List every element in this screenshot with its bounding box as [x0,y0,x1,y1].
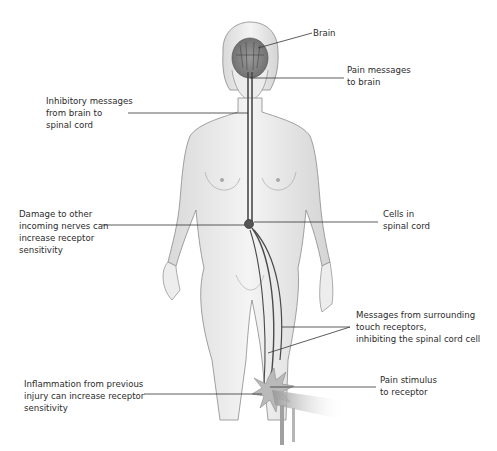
label-inhibitory-messages: Inhibitory messages from brain to spinal… [46,95,133,131]
label-cells-spinal-cord: Cells in spinal cord [383,208,430,232]
label-touch-receptors: Messages from surrounding touch receptor… [356,309,480,345]
brain-graphic [232,38,268,78]
label-brain: Brain [313,27,336,39]
label-inflammation: Inflammation from previous injury can in… [24,378,144,414]
label-pain-messages: Pain messages to brain [347,64,411,88]
label-pain-stimulus: Pain stimulus to receptor [380,374,437,398]
label-damage-nerves: Damage to other incoming nerves can incr… [19,208,109,256]
